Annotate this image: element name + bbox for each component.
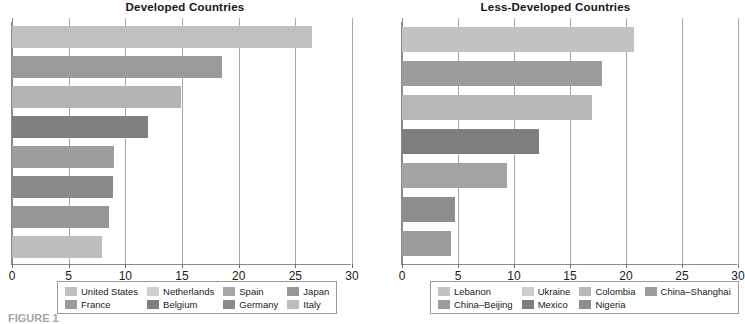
legend-label: Belgium [163,299,197,310]
x-tick-25 [682,264,683,268]
bar [12,86,181,108]
x-tick-10 [514,264,515,268]
legend-swatch-icon [147,300,159,309]
bar [402,61,602,86]
legend-label: United States [81,286,138,297]
x-tick-20 [626,264,627,268]
bar [402,129,539,154]
legend-item[interactable]: Ukraine [522,285,571,297]
chart-title-developed: Developed Countries [0,0,370,14]
legend-item[interactable]: Japan [287,285,329,297]
x-tick-30 [352,264,353,268]
bar [12,236,102,258]
legend-less-developed: LebanonChina–BeijingUkraineMexicoColombi… [430,281,739,314]
legend-swatch-icon [522,287,534,296]
legend-label: China–Beijing [454,299,513,310]
bar [12,206,109,228]
bar [402,197,455,222]
bar [402,231,451,256]
legend-label: Germany [239,299,278,310]
bar [12,26,312,48]
bars-developed [12,22,351,264]
bar [12,116,148,138]
legend-item[interactable]: Netherlands [147,285,214,297]
legend-swatch-icon [522,300,534,309]
legend-label: Italy [303,299,320,310]
chart-title-less-developed: Less-Developed Countries [370,0,741,14]
legend-swatch-icon [65,287,77,296]
legend-item[interactable]: Spain [223,285,278,297]
legend-item[interactable]: Colombia [579,285,635,297]
legend-developed: United StatesFranceNetherlandsBelgiumSpa… [57,281,337,314]
legend-item[interactable]: France [65,298,138,310]
legend-swatch-icon [223,287,235,296]
bar [402,95,592,120]
x-tick-10 [125,264,126,268]
chart-panel-less-developed: Less-Developed Countries 051015202530 Le… [370,0,741,320]
legend-swatch-icon [147,287,159,296]
figure-caption: FIGURE 1 [8,312,59,324]
legend-swatch-icon [223,300,235,309]
x-tick-label: 0 [399,269,406,283]
x-tick-label: 30 [345,269,358,283]
bars-less-developed [402,22,737,264]
legend-item[interactable]: Mexico [522,298,571,310]
bar [12,56,222,78]
legend-item[interactable]: China–Shanghai [645,285,731,297]
legend-swatch-icon [579,300,591,309]
bar [402,27,634,52]
x-tick-15 [570,264,571,268]
bar [12,146,114,168]
legend-swatch-icon [438,287,450,296]
plot-area-developed: 051015202530 [11,22,351,265]
legend-swatch-icon [65,300,77,309]
chart-panel-developed: Developed Countries 051015202530 United … [0,0,370,320]
bar [12,176,113,198]
gridline-30 [352,18,353,264]
legend-item[interactable]: Nigeria [579,298,635,310]
x-tick-30 [738,264,739,268]
legend-label: China–Shanghai [661,286,731,297]
x-tick-0 [12,264,13,268]
legend-item[interactable]: Belgium [147,298,214,310]
legend-swatch-icon [438,300,450,309]
legend-item[interactable]: Germany [223,298,278,310]
legend-label: France [81,299,111,310]
legend-swatch-icon [579,287,591,296]
legend-label: Japan [303,286,329,297]
x-tick-5 [458,264,459,268]
legend-item[interactable]: United States [65,285,138,297]
legend-label: Nigeria [595,299,625,310]
legend-label: Mexico [538,299,568,310]
gridline-30 [738,18,739,264]
x-tick-0 [402,264,403,268]
plot-area-less-developed: 051015202530 [401,22,737,265]
legend-label: Spain [239,286,263,297]
x-tick-label: 0 [9,269,16,283]
legend-swatch-icon [287,287,299,296]
bar [402,163,507,188]
legend-swatch-icon [645,287,657,296]
legend-label: Ukraine [538,286,571,297]
legend-item[interactable]: Lebanon [438,285,513,297]
legend-label: Colombia [595,286,635,297]
legend-item[interactable]: China–Beijing [438,298,513,310]
legend-item[interactable]: Italy [287,298,329,310]
x-tick-25 [295,264,296,268]
legend-label: Netherlands [163,286,214,297]
x-tick-5 [69,264,70,268]
x-tick-15 [182,264,183,268]
legend-swatch-icon [287,300,299,309]
legend-label: Lebanon [454,286,491,297]
x-tick-20 [239,264,240,268]
